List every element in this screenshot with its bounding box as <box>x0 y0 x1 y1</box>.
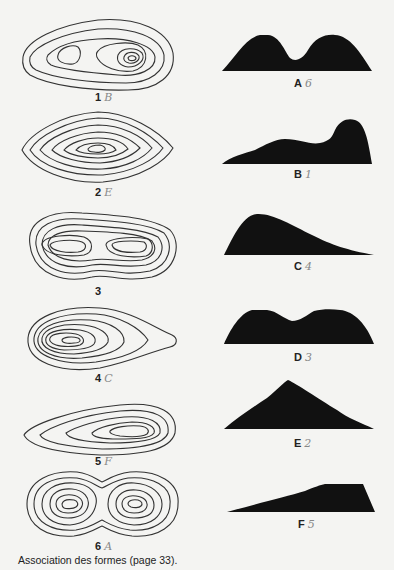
profile-A <box>220 30 375 72</box>
contour-map-2 <box>18 108 178 186</box>
contour-map-4 <box>20 300 180 378</box>
profile-E <box>222 378 377 430</box>
handwritten-annotation: 3 <box>305 351 312 364</box>
profile-label-A: A6 <box>294 77 312 90</box>
contour-map-6 <box>22 468 182 540</box>
profile-D <box>222 305 377 345</box>
contour-label-1: 1B <box>95 91 112 104</box>
profile-label-F: F5 <box>298 518 315 531</box>
contour-label-4: 4C <box>95 372 113 385</box>
handwritten-annotation: 5 <box>308 518 315 531</box>
contour-label-5: 5F <box>95 455 112 468</box>
contour-map-1 <box>18 15 178 95</box>
profile-label-B: B1 <box>294 168 312 181</box>
contour-label-6: 6A <box>95 540 112 553</box>
contour-label-3: 3 <box>95 285 104 298</box>
profile-B <box>220 115 375 165</box>
contour-map-5 <box>20 395 180 457</box>
profile-label-C: C4 <box>294 260 312 273</box>
handwritten-annotation: A <box>104 540 112 553</box>
handwritten-annotation: 1 <box>305 168 312 181</box>
handwritten-annotation: 4 <box>305 260 312 273</box>
handwritten-annotation: B <box>104 91 112 104</box>
handwritten-annotation: 2 <box>304 437 311 450</box>
profile-label-E: E2 <box>294 437 311 450</box>
handwritten-annotation: F <box>104 455 112 468</box>
handwritten-annotation: 6 <box>305 77 312 90</box>
figure-caption: Association des formes (page 33). <box>18 554 177 566</box>
profile-C <box>222 210 377 256</box>
profile-F <box>225 479 380 513</box>
contour-label-2: 2E <box>95 186 112 199</box>
handwritten-annotation: C <box>104 372 112 385</box>
profile-label-D: D3 <box>294 351 312 364</box>
handwritten-annotation: E <box>104 186 112 199</box>
contour-map-3 <box>22 205 182 285</box>
